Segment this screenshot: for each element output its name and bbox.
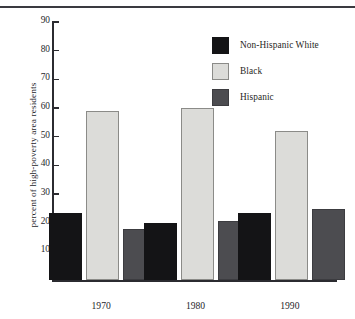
y-tick-label: 90 (24, 15, 50, 25)
bar-chart-figure: percent of high-poverty area residents 1… (0, 10, 355, 319)
legend-label: Non-Hispanic White (240, 40, 319, 50)
y-tick-label: 30 (24, 187, 50, 197)
x-axis-label-1970: 1970 (71, 300, 131, 311)
x-axis-label-1990: 1990 (260, 300, 320, 311)
legend-swatch-icon (212, 89, 229, 106)
bar-1970-black (86, 111, 119, 280)
top-rule (0, 6, 355, 8)
legend-swatch-icon (212, 37, 229, 54)
bar-1970-non-hispanic-white (49, 213, 82, 280)
x-axis-spine (52, 280, 337, 282)
y-tick-label: 50 (24, 130, 50, 140)
legend-label: Black (240, 66, 262, 76)
legend-item-hispanic: Hispanic (212, 84, 352, 110)
bar-1980-black (181, 108, 214, 280)
x-axis-label-1980: 1980 (166, 300, 226, 311)
bar-1990-hispanic (312, 209, 345, 281)
bar-1990-non-hispanic-white (238, 213, 271, 280)
y-tick-label: 40 (24, 158, 50, 168)
bar-1990-black (275, 131, 308, 281)
legend-item-black: Black (212, 58, 352, 84)
y-tick-label: 70 (24, 72, 50, 82)
y-tick-label: 60 (24, 101, 50, 111)
y-tick-label: 10 (24, 244, 50, 254)
y-tick-label: 80 (24, 44, 50, 54)
bar-1980-non-hispanic-white (144, 223, 177, 281)
legend-label: Hispanic (240, 92, 274, 102)
legend: Non-Hispanic WhiteBlackHispanic (212, 32, 352, 110)
legend-swatch-icon (212, 63, 229, 80)
legend-item-non-hispanic-white: Non-Hispanic White (212, 32, 352, 58)
y-tick-label: 20 (24, 216, 50, 226)
